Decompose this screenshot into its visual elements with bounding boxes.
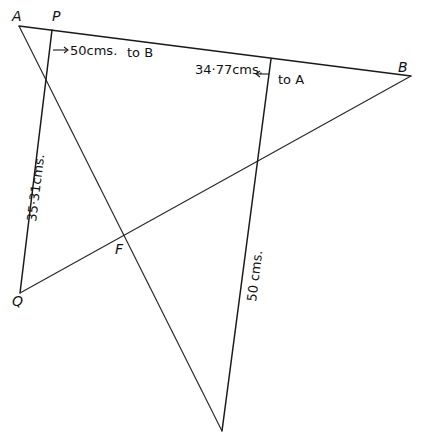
measure-rv: 50 cms. xyxy=(244,250,265,303)
point-label-q: Q xyxy=(12,293,23,309)
measure-pb: 50cms. xyxy=(70,43,117,58)
point-label-b: B xyxy=(398,59,408,75)
segment-qb xyxy=(20,76,411,293)
measure-ra: 34·77cms. xyxy=(195,62,263,77)
point-label-a: A xyxy=(11,8,22,24)
measure-pq: 35·31cms. xyxy=(24,153,47,222)
arrow-right-icon xyxy=(53,47,68,53)
segment-r-to-bottom-vertex xyxy=(222,59,271,431)
segment-a-to-bottom-vertex xyxy=(19,26,222,431)
direction-to-b: to B xyxy=(127,45,153,60)
direction-to-a: to A xyxy=(278,72,304,87)
point-label-p: P xyxy=(52,8,61,24)
point-label-f: F xyxy=(115,241,124,257)
geometry-diagram: A P B Q F 50cms. to B 34·77cms. to A 35·… xyxy=(0,0,423,437)
